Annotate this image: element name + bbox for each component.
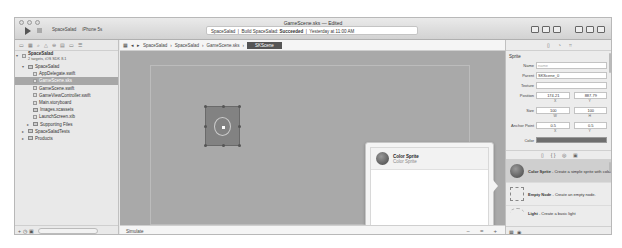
resize-handle[interactable] — [204, 105, 207, 108]
assistant-editor-icon[interactable] — [542, 26, 550, 33]
file-inspector-icon[interactable]: ▯ — [547, 42, 550, 48]
symbol-icon[interactable]: ▦ — [28, 42, 33, 48]
breadcrumb-file[interactable]: GameScene.sks — [207, 43, 240, 48]
related-items-icon[interactable]: ▦ — [123, 43, 128, 48]
navigator-footer: + ◷ ▣ — [15, 225, 118, 235]
recent-files-icon[interactable]: ◷ — [23, 228, 27, 234]
stop-icon[interactable] — [37, 28, 42, 33]
breadcrumb-group[interactable]: SpaceSalad — [175, 43, 199, 48]
filter-icon[interactable]: ◉ — [517, 229, 521, 235]
object-library-icon[interactable]: ◎ — [562, 152, 566, 158]
breadcrumb-project[interactable]: SpaceSalad — [143, 43, 167, 48]
debug-toggle-icon[interactable] — [586, 26, 594, 33]
resize-handle[interactable] — [204, 144, 207, 147]
disclosure-closed-icon[interactable]: ▸ — [22, 135, 26, 142]
disclosure-open-icon[interactable]: ▾ — [22, 63, 26, 70]
tree-item-group[interactable]: ▸ Products — [15, 135, 118, 142]
tree-item-label: LaunchScreen.xib — [39, 113, 75, 120]
add-icon[interactable]: + — [18, 228, 21, 234]
object-library-list: Color Sprite - Create a simple sprite wi… — [506, 160, 612, 220]
color-well[interactable] — [536, 137, 607, 143]
log-icon[interactable]: ☰ — [78, 42, 82, 48]
version-editor-icon[interactable] — [553, 26, 561, 33]
size-height-stepper[interactable]: 100 — [574, 107, 608, 114]
editor-footer: Simulate − = + — [120, 225, 505, 235]
grid-view-icon[interactable]: ▦ — [509, 229, 514, 235]
test-icon[interactable]: ⊖ — [52, 42, 56, 48]
forward-icon[interactable]: ▸ — [137, 43, 140, 48]
position-y-stepper[interactable]: 887.79 — [574, 92, 608, 99]
quick-help-icon[interactable]: ◔ — [558, 42, 561, 48]
selected-sprite[interactable] — [205, 106, 240, 146]
media-library-icon[interactable]: ▣ — [573, 152, 578, 158]
scheme-name[interactable]: SpaceSalad — [52, 27, 76, 32]
resize-handle[interactable] — [222, 144, 225, 147]
activity-build-label: Build SpaceSalad: — [241, 29, 278, 34]
tree-item-file[interactable]: LaunchScreen.xib — [15, 113, 118, 120]
breakpoint-icon[interactable]: ▭ — [69, 42, 74, 48]
search-icon[interactable]: ⌕ — [37, 42, 40, 49]
tree-item-project[interactable]: ▾ SpaceSalad 2 targets, iOS SDK 8.1 — [15, 52, 118, 63]
library-scrollbar[interactable] — [609, 162, 611, 172]
play-icon[interactable] — [25, 27, 31, 35]
name-field[interactable]: name — [536, 62, 607, 69]
utilities-toggle-icon[interactable] — [597, 26, 605, 33]
disclosure-closed-icon[interactable]: ▸ — [27, 121, 31, 128]
size-width-stepper[interactable]: 100 — [536, 107, 570, 114]
anchor-x-stepper[interactable]: 0.5 — [536, 122, 570, 129]
library-item-color-sprite[interactable]: Color Sprite - Create a simple sprite wi… — [506, 160, 612, 183]
zoom-reset-button[interactable]: = — [480, 228, 484, 234]
tree-item-file[interactable]: Main.storyboard — [15, 99, 118, 106]
code-snippet-icon[interactable]: { } — [551, 152, 556, 158]
standard-editor-icon[interactable] — [531, 26, 539, 33]
resize-handle[interactable] — [238, 144, 241, 147]
node-inspector-icon[interactable]: ⌗ — [569, 42, 572, 49]
resize-handle[interactable] — [238, 125, 241, 128]
swift-file-icon — [33, 72, 37, 76]
navigator-tabs: ▭ ▦ ⌕ △ ⊖ ▤ ▭ ☰ — [15, 40, 118, 51]
swift-file-icon — [33, 86, 37, 90]
size-label: Size — [506, 108, 536, 113]
popover-item[interactable]: Color Sprite Color Sprite — [371, 148, 488, 170]
navigator-toggle-icon[interactable] — [575, 26, 583, 33]
disclosure-closed-icon[interactable]: ▸ — [22, 128, 26, 135]
library-item-empty-node[interactable]: Empty Node - Create an empty node. — [506, 183, 612, 206]
issue-icon[interactable]: △ — [44, 42, 48, 48]
object-popover: Color Sprite Color Sprite Done — [365, 142, 494, 235]
tree-item-file-selected[interactable]: GameScene.sks — [15, 77, 118, 84]
zoom-in-button[interactable]: + — [493, 228, 497, 234]
parent-select[interactable]: SKScene_0 — [536, 72, 607, 79]
tree-item-file[interactable]: AppDelegate.swift — [15, 70, 118, 77]
anchor-point[interactable] — [222, 126, 225, 129]
scheme-selector[interactable]: SpaceSalad iPhone 5s — [52, 27, 102, 32]
position-x-stepper[interactable]: 174.21 — [536, 92, 570, 99]
tree-item-group[interactable]: ▾ SpaceSalad — [15, 63, 118, 70]
texture-label: Texture — [506, 83, 536, 88]
back-icon[interactable]: ◂ — [131, 43, 134, 48]
device-name[interactable]: iPhone 5s — [82, 27, 102, 32]
tree-item-group[interactable]: ▸ Supporting Files — [15, 121, 118, 128]
tree-item-file[interactable]: GameViewController.swift — [15, 92, 118, 99]
anchor-y-stepper[interactable]: 0.5 — [574, 122, 608, 129]
library-item-text: Color Sprite - Create a simple sprite wi… — [528, 169, 612, 174]
debug-icon[interactable]: ▤ — [60, 42, 65, 48]
scm-filter-icon[interactable]: ▣ — [29, 228, 34, 234]
size-sublabels: W H — [506, 114, 612, 119]
tree-item-group[interactable]: ▸ SpaceSaladTests — [15, 128, 118, 135]
disclosure-open-icon[interactable]: ▾ — [16, 52, 20, 59]
tree-item-file[interactable]: GameScene.swift — [15, 85, 118, 92]
resize-handle[interactable] — [238, 105, 241, 108]
file-template-icon[interactable]: ▯ — [541, 152, 544, 158]
resize-handle[interactable] — [222, 105, 225, 108]
tree-item-label: Images.xcassets — [40, 106, 74, 113]
simulate-button[interactable]: Simulate — [126, 229, 144, 234]
tree-item-file[interactable]: Images.xcassets — [15, 106, 118, 113]
library-item-light[interactable]: Light - Create a basic light — [506, 206, 612, 220]
inspector-scrollbar[interactable] — [609, 53, 611, 73]
project-icon[interactable]: ▭ — [19, 42, 24, 48]
texture-select[interactable] — [536, 82, 607, 89]
zoom-out-button[interactable]: − — [466, 228, 470, 234]
breadcrumb-scene[interactable]: SKScene — [247, 42, 282, 49]
resize-handle[interactable] — [204, 125, 207, 128]
filter-input[interactable] — [38, 228, 98, 234]
